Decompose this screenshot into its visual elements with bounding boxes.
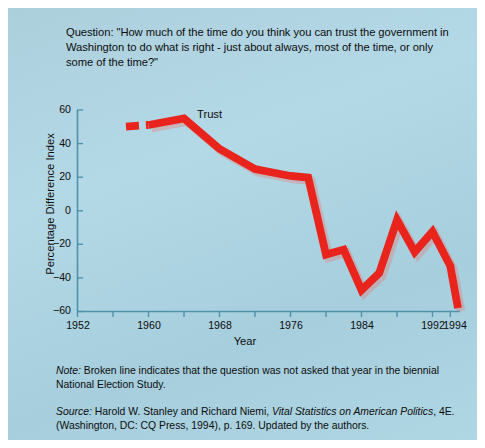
x-axis-ticks [78,312,451,318]
trust-line-broken-segment [126,125,149,127]
x-tick-label-1992: 1992 [421,319,445,331]
x-axis-title: Year [195,335,295,347]
trust-line [149,119,459,309]
trust-line-shadow [152,122,462,312]
source-part-1: Harold W. Stanley and Richard Niemi, [92,406,272,417]
y-axis-title: Percentage Difference Index [44,124,56,284]
note-lead: Note: [56,365,81,376]
series-label-trust: Trust [197,108,222,120]
x-tick-label-1994: 1994 [443,319,467,331]
source-lead: Source: [56,406,92,417]
y-tick-label-neg60: −60 [39,304,71,316]
x-tick-label-1960: 1960 [137,319,161,331]
note-body: Broken line indicates that the question … [56,365,439,390]
x-tick-label-1984: 1984 [350,319,374,331]
x-tick-label-1976: 1976 [279,319,303,331]
x-tick-label-1968: 1968 [208,319,232,331]
note-broken-line: Note: Broken line indicates that the que… [56,364,456,393]
notes-section: Note: Broken line indicates that the que… [56,364,456,446]
figure-panel: Question: "How much of the time do you t… [8,8,477,440]
source-citation: Source: Harold W. Stanley and Richard Ni… [56,405,456,434]
source-work-title: Vital Statistics on American Politics [272,406,433,417]
y-tick-label-60: 60 [45,103,71,115]
x-tick-label-1952: 1952 [66,319,90,331]
